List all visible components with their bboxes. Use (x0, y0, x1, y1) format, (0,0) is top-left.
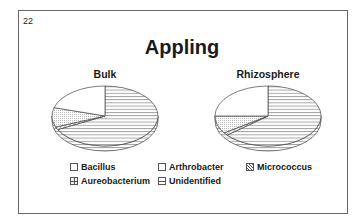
blank-swatch-icon (70, 163, 78, 171)
legend-item-micrococcus: Micrococcus (246, 162, 312, 172)
grid-swatch-icon (70, 177, 78, 185)
pie-charts (0, 0, 364, 224)
pie-slice-bacillus-arthrobacter (215, 86, 268, 116)
blank-swatch-icon (158, 163, 166, 171)
legend-item-arthrobacter: Arthrobacter (158, 162, 224, 172)
horizontal-lines-swatch-icon (158, 177, 166, 185)
diagonal-hatch-swatch-icon (246, 163, 254, 171)
legend-item-aureobacterium: Aureobacterium (70, 176, 150, 186)
legend-item-unidentified: Unidentified (158, 176, 221, 186)
pie-bulk (52, 86, 158, 151)
legend-item-bacillus: Bacillus (70, 162, 116, 172)
pie-rhizosphere (215, 86, 321, 151)
